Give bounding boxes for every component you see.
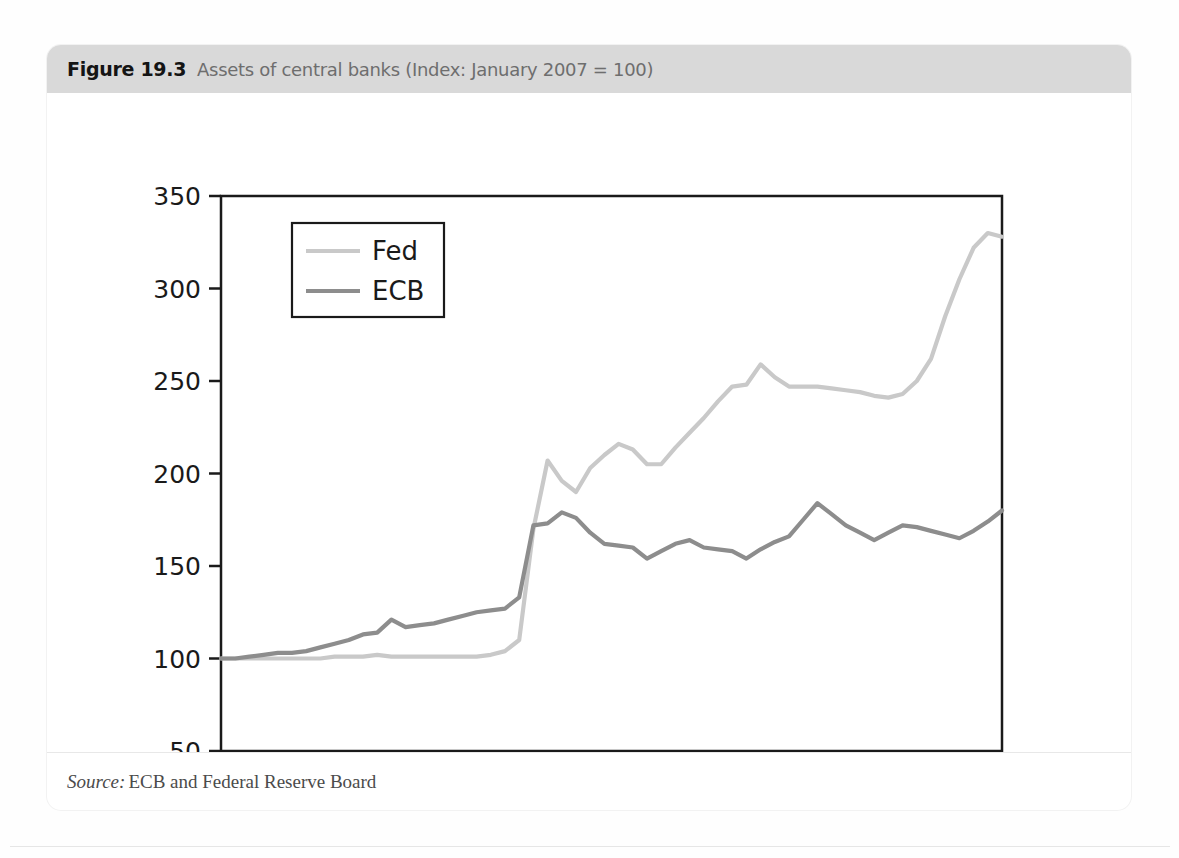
y-tick-label: 100	[153, 645, 201, 674]
line-chart: 50100150200250300350 2007-012007-072008-…	[47, 93, 1131, 753]
y-tick-label: 350	[153, 182, 201, 211]
source-label: Source:	[67, 771, 125, 793]
y-tick-label: 150	[153, 552, 201, 581]
figure-source: Source: ECB and Federal Reserve Board	[47, 752, 1131, 810]
legend-label-fed: Fed	[372, 236, 418, 266]
series-line-ecb	[221, 503, 1002, 658]
figure-header: Figure 19.3 Assets of central banks (Ind…	[47, 45, 1131, 93]
page-divider	[10, 846, 1170, 847]
y-tick-label: 50	[169, 737, 201, 753]
y-tick-label: 200	[153, 460, 201, 489]
figure-title: Assets of central banks (Index: January …	[197, 59, 653, 80]
source-value: ECB and Federal Reserve Board	[128, 771, 376, 793]
legend-label-ecb: ECB	[372, 276, 424, 306]
y-tick-label: 250	[153, 367, 201, 396]
y-tick-label: 300	[153, 275, 201, 304]
chart-plot-area: 50100150200250300350 2007-012007-072008-…	[47, 93, 1131, 753]
figure-number: Figure 19.3	[67, 58, 186, 80]
y-axis-ticks: 50100150200250300350	[153, 182, 221, 753]
chart-legend: FedECB	[292, 223, 444, 317]
figure-card: Figure 19.3 Assets of central banks (Ind…	[47, 45, 1131, 810]
